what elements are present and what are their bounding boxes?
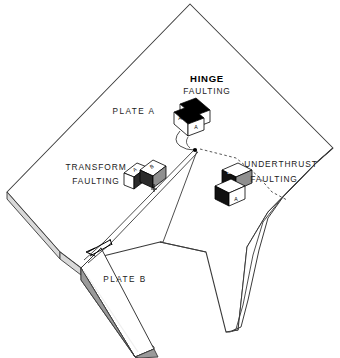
underthrust-block-b-label: B xyxy=(227,169,231,175)
plate-a-label: PLATE A xyxy=(112,107,155,116)
hinge-faulting-title: HINGE xyxy=(190,73,224,84)
triple-junction-point xyxy=(193,148,197,152)
diagram-canvas: A A A B B xyxy=(0,0,340,358)
underthrust-block-a-label: A xyxy=(234,196,238,202)
transform-faulting-title: TRANSFORM xyxy=(65,162,126,172)
underthrust-faulting-title: UNDERTHRUST xyxy=(244,159,318,169)
underthrust-faulting-subtitle: FAULTING xyxy=(250,174,298,184)
hinge-block-left-label: A xyxy=(178,115,182,121)
transform-faulting-subtitle: FAULTING xyxy=(72,176,120,186)
plate-b-slab xyxy=(81,248,158,358)
plate-b-label: PLATE B xyxy=(103,275,147,284)
hinge-block-right-label: A xyxy=(194,124,198,130)
hinge-faulting-subtitle: FAULTING xyxy=(183,86,231,96)
faulting-diagram-figure: A A A B B xyxy=(0,0,340,358)
plate-b-top-face xyxy=(81,248,154,357)
